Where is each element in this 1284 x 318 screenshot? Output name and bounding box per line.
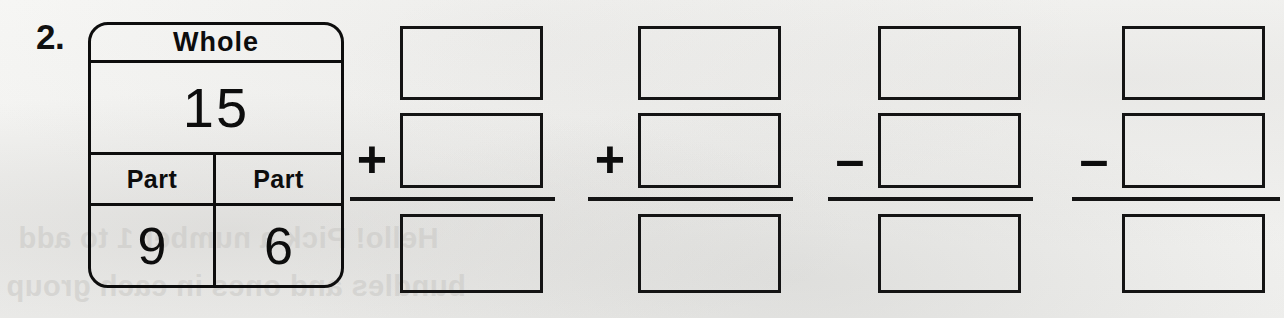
whole-label: Whole <box>173 27 259 58</box>
part-value-cell-right: 6 <box>216 206 341 285</box>
part-value-cell-left: 9 <box>91 206 216 285</box>
answer-rule-line <box>1072 197 1280 201</box>
answer-box-top[interactable] <box>878 26 1021 100</box>
answer-box-bottom[interactable] <box>400 214 543 293</box>
operator-plus-icon: + <box>350 128 394 190</box>
arithmetic-column-3: – <box>828 0 1068 318</box>
answer-box-bottom[interactable] <box>878 214 1021 293</box>
answer-box-top[interactable] <box>638 26 781 100</box>
part-value-right: 6 <box>264 220 293 272</box>
part-label-right: Part <box>253 165 304 194</box>
part-values-row: 9 6 <box>91 206 341 285</box>
operator-minus-icon: – <box>1072 128 1116 190</box>
answer-box-middle[interactable] <box>400 113 543 188</box>
part-value-left: 9 <box>138 220 167 272</box>
problem-number: 2. <box>36 17 64 57</box>
whole-value-row: 15 <box>91 63 341 155</box>
answer-box-middle[interactable] <box>878 113 1021 188</box>
part-label-cell-right: Part <box>216 155 341 203</box>
answer-box-middle[interactable] <box>1122 113 1265 188</box>
arithmetic-column-1: + <box>350 0 590 318</box>
answer-box-bottom[interactable] <box>638 214 781 293</box>
operator-plus-icon: + <box>588 128 632 190</box>
part-label-cell-left: Part <box>91 155 216 203</box>
operator-minus-icon: – <box>828 128 872 190</box>
answer-box-middle[interactable] <box>638 113 781 188</box>
answer-rule-line <box>828 197 1033 201</box>
answer-rule-line <box>350 197 555 201</box>
part-labels-row: Part Part <box>91 155 341 206</box>
arithmetic-column-4: – <box>1072 0 1284 318</box>
part-whole-box: Whole 15 Part Part 9 6 <box>88 22 344 288</box>
part-label-left: Part <box>127 165 178 194</box>
answer-box-top[interactable] <box>1122 26 1265 100</box>
arithmetic-column-2: + <box>588 0 828 318</box>
answer-rule-line <box>588 197 793 201</box>
answer-box-bottom[interactable] <box>1122 214 1265 293</box>
whole-header-row: Whole <box>91 25 341 63</box>
answer-box-top[interactable] <box>400 26 543 100</box>
whole-value: 15 <box>183 80 249 136</box>
